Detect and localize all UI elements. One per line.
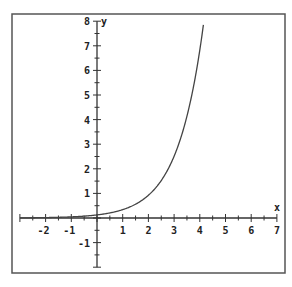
x-axis-label: x [274,202,280,213]
svg-text:-1: -1 [78,238,90,249]
chart: -2-11234567-112345678 x y [0,0,292,287]
svg-text:7: 7 [84,41,90,52]
svg-text:1: 1 [120,225,126,236]
svg-text:1: 1 [84,188,90,199]
svg-text:3: 3 [171,225,177,236]
svg-text:-1: -1 [63,225,75,236]
svg-text:8: 8 [84,16,90,27]
svg-text:5: 5 [222,225,228,236]
svg-text:6: 6 [84,65,90,76]
svg-text:4: 4 [84,115,90,126]
svg-text:2: 2 [84,164,90,175]
svg-text:-2: -2 [38,225,50,236]
y-axis-label: y [101,16,107,27]
svg-text:4: 4 [197,225,203,236]
svg-text:5: 5 [84,90,90,101]
svg-text:2: 2 [145,225,151,236]
svg-text:6: 6 [248,225,254,236]
svg-text:7: 7 [274,225,280,236]
svg-text:3: 3 [84,139,90,150]
